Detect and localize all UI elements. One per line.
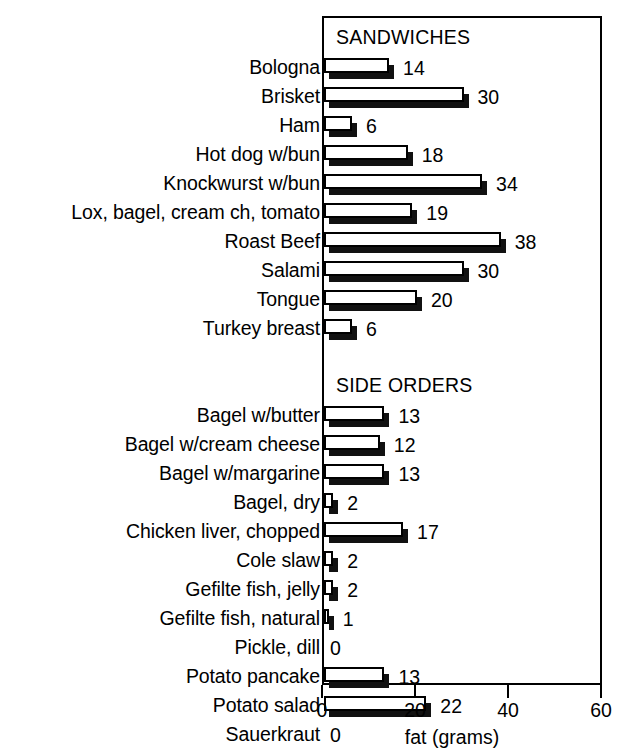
chart-row: Salami30 [0,257,624,286]
chart-row: Potato salad22 [0,692,624,721]
category-label: Roast Beef [225,230,320,252]
bar-value-label: 18 [422,144,444,166]
category-label: Bagel w/butter [197,404,320,426]
bar [324,319,359,341]
chart-row: Potato pancake13 [0,663,624,692]
chart-row: Bagel w/cream cheese12 [0,431,624,460]
bar-face [324,174,482,189]
bar-value-label: 30 [478,86,500,108]
bar-face [324,696,426,711]
bar-face [324,87,464,102]
bar-value-label: 2 [347,550,358,572]
bar [324,406,391,428]
bar-face [324,261,464,276]
bar-face [324,116,352,131]
category-label: Salami [261,259,320,281]
chart-rows: SANDWICHESBologna14Brisket30Ham6Hot dog … [0,0,624,700]
category-label: Hot dog w/bun [196,143,320,165]
section-header-row: SIDE ORDERS [0,373,624,402]
bar-face [324,551,333,566]
bar-face [324,493,333,508]
bar-value-label: 1 [343,608,354,630]
bar [324,145,415,167]
bar-value-label: 2 [347,492,358,514]
bar [324,580,340,602]
bar-face [324,319,352,334]
bar-value-label: 13 [398,405,420,427]
bar-value-label: 6 [366,318,377,340]
bar-value-label: 13 [398,463,420,485]
bar-face [324,203,412,218]
bar-face [324,464,384,479]
bar-value-label: 14 [403,57,425,79]
bar [324,435,387,457]
category-label: Chicken liver, chopped [126,520,320,542]
chart-row: Bagel w/butter13 [0,402,624,431]
bar [324,116,359,138]
bar-face [324,435,380,450]
x-axis-title-text: fat (grams) [405,726,499,748]
bar [324,522,410,544]
chart-row: Knockwurst w/bun34 [0,170,624,199]
bar-value-label: 6 [366,115,377,137]
bar-value-label: 0 [330,637,341,659]
bar [324,58,396,80]
bar [324,609,336,631]
category-label: Brisket [261,85,320,107]
chart-row: Lox, bagel, cream ch, tomato19 [0,199,624,228]
category-label: Pickle, dill [235,636,321,658]
category-label: Lox, bagel, cream ch, tomato [71,201,320,223]
chart-row: Bagel, dry2 [0,489,624,518]
chart-row: Ham6 [0,112,624,141]
bar-face [324,58,389,73]
category-label: Bologna [249,56,320,78]
category-label: Cole slaw [236,549,320,571]
section-header-row: SANDWICHES [0,25,624,54]
bar [324,261,471,283]
category-label: Bagel, dry [233,491,320,513]
bar [324,203,419,225]
bar [324,696,433,718]
category-label: Gefilte fish, jelly [185,578,320,600]
chart-row: Bologna14 [0,54,624,83]
bar-value-label: 34 [496,173,518,195]
category-label: Potato salad [213,694,320,716]
chart-row: Turkey breast6 [0,315,624,344]
bar-value-label: 22 [440,695,462,717]
category-label: Bagel w/cream cheese [125,433,320,455]
category-label: Bagel w/margarine [159,462,320,484]
section-title-side-orders: SIDE ORDERS [336,374,473,397]
bar [324,232,508,254]
bar-face [324,580,333,595]
bar-value-label: 12 [394,434,416,456]
bar-face [324,290,417,305]
bar-face [324,232,501,247]
bar [324,493,340,515]
category-label: Ham [279,114,320,136]
bar-face [324,667,384,682]
bar [324,290,424,312]
bar-value-label: 13 [398,666,420,688]
chart-row: Gefilte fish, jelly2 [0,576,624,605]
bar-value-label: 30 [478,260,500,282]
chart-row: Bagel w/margarine13 [0,460,624,489]
bar-value-label: 38 [515,231,537,253]
bar-face [324,522,403,537]
bar [324,464,391,486]
chart-row: Chicken liver, chopped17 [0,518,624,547]
section-title-sandwiches: SANDWICHES [336,26,470,49]
category-label: Gefilte fish, natural [160,607,320,629]
category-label: Turkey breast [203,317,320,339]
chart-row: Roast Beef38 [0,228,624,257]
chart-row: Pickle, dill0 [0,634,624,663]
fat-grams-bar-chart: SANDWICHESBologna14Brisket30Ham6Hot dog … [0,0,624,756]
chart-row: Gefilte fish, natural1 [0,605,624,634]
bar [324,551,340,573]
bar [324,667,391,689]
chart-row: Hot dog w/bun18 [0,141,624,170]
bar-value-label: 20 [431,289,453,311]
bar-face [324,145,408,160]
category-label: Knockwurst w/bun [163,172,320,194]
bar-value-label: 19 [426,202,448,224]
bar [324,174,489,196]
